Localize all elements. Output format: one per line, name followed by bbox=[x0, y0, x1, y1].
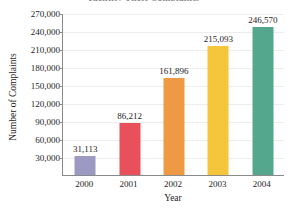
bar[interactable] bbox=[208, 46, 229, 175]
bar-group: 246,570 bbox=[241, 14, 285, 175]
x-axis-tick-label: 2001 bbox=[106, 179, 150, 189]
y-axis-tick-label: 270,000 bbox=[14, 9, 60, 19]
y-axis-tick-label: 60,000 bbox=[14, 135, 60, 145]
y-axis-tick-label: 210,000 bbox=[14, 45, 60, 55]
bar[interactable] bbox=[119, 123, 140, 175]
bar[interactable] bbox=[252, 27, 273, 175]
plot-area: 31,11386,212161,896215,093246,570 bbox=[62, 14, 284, 176]
y-axis-tick-label: 240,000 bbox=[14, 27, 60, 37]
y-axis-tick-label: 120,000 bbox=[14, 99, 60, 109]
bar[interactable] bbox=[163, 78, 184, 175]
x-axis-tick-labels: 20002001200220032004 bbox=[62, 179, 284, 193]
bar-group: 31,113 bbox=[63, 14, 107, 175]
x-axis-tick-label: 2002 bbox=[151, 179, 195, 189]
bar-value-label: 246,570 bbox=[248, 15, 277, 25]
bar-chart: Identity Theft Complaints Number of Comp… bbox=[0, 0, 288, 214]
x-axis-tick-label: 2000 bbox=[62, 179, 106, 189]
bar-value-label: 86,212 bbox=[117, 111, 142, 121]
y-axis-tick-label: 180,000 bbox=[14, 63, 60, 73]
x-axis-tick-label: 2003 bbox=[195, 179, 239, 189]
bar-value-label: 215,093 bbox=[204, 34, 233, 44]
y-axis-tick-label: 150,000 bbox=[14, 81, 60, 91]
y-axis-tick-labels: 30,00060,00090,000120,000150,000180,0002… bbox=[14, 14, 60, 176]
bar-value-label: 31,113 bbox=[73, 144, 97, 154]
chart-title: Identity Theft Complaints bbox=[0, 0, 288, 1]
bar-group: 86,212 bbox=[107, 14, 151, 175]
bar[interactable] bbox=[75, 156, 96, 175]
y-axis-tick-label: 90,000 bbox=[14, 117, 60, 127]
bar-group: 161,896 bbox=[152, 14, 196, 175]
y-axis-tick-label: 30,000 bbox=[14, 153, 60, 163]
bar-value-label: 161,896 bbox=[159, 66, 188, 76]
x-axis-title: Year bbox=[62, 193, 284, 203]
bar-group: 215,093 bbox=[196, 14, 240, 175]
x-axis-tick-label: 2004 bbox=[240, 179, 284, 189]
bars-layer: 31,11386,212161,896215,093246,570 bbox=[63, 14, 284, 175]
